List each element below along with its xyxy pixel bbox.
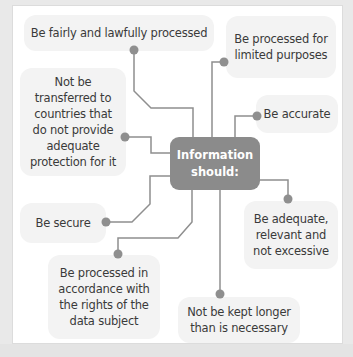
connector-dot-rights	[114, 250, 123, 259]
connector-dot-accurate	[253, 112, 262, 121]
center-node: Information should:	[170, 137, 260, 190]
connector-dot-secure	[102, 218, 111, 227]
connector-dot-transfer	[121, 133, 130, 142]
center-node-label: Information should:	[177, 147, 253, 181]
connector-dot-fair	[130, 46, 139, 55]
connector-dot-kept	[216, 290, 225, 299]
connector-dot-limited	[220, 58, 229, 67]
connector-dot-adequate	[284, 195, 293, 204]
